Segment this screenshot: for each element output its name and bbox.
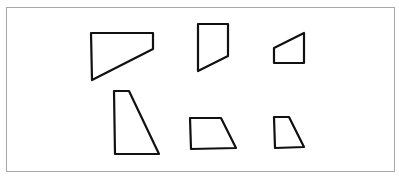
- quadrilateral-1: [91, 33, 153, 80]
- quadrilateral-6: [274, 117, 304, 148]
- quadrilateral-4: [114, 91, 159, 154]
- shapes-canvas: [0, 0, 399, 182]
- quadrilateral-3: [274, 33, 304, 63]
- quadrilateral-5: [190, 118, 236, 149]
- quadrilateral-2: [198, 24, 228, 71]
